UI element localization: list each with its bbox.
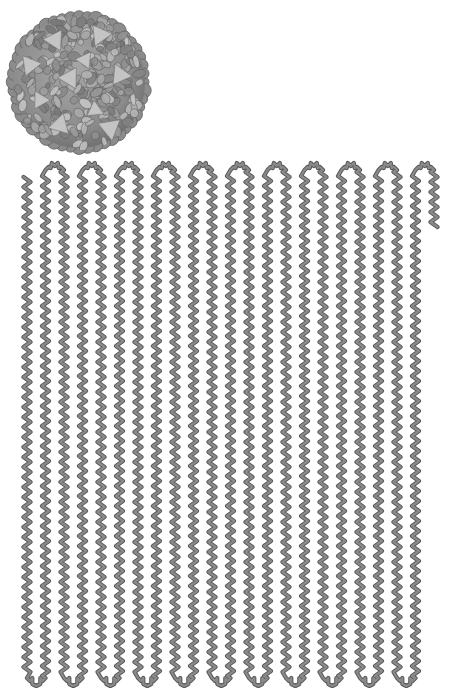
virus-capsid: [6, 11, 151, 155]
virus-illustration: [0, 0, 458, 695]
genome-strand: [24, 163, 438, 686]
